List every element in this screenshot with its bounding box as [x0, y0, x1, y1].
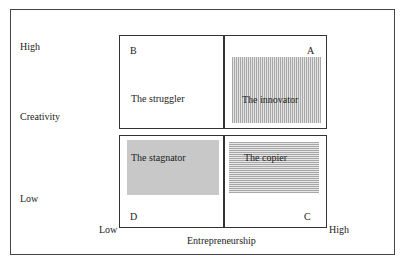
quadrant-divider [223, 36, 225, 128]
quadrant-c-label: The copier [244, 152, 287, 163]
quadrant-c-fill [229, 142, 319, 193]
quadrant-row-high: B The struggler A The innovator [119, 35, 327, 129]
y-low-label: Low [20, 193, 38, 204]
quadrant-a-fill [232, 57, 321, 123]
quadrant-row-low: The stagnator D The copier C [119, 135, 327, 228]
y-axis-label: Creativity [20, 111, 60, 122]
x-axis-label: Entrepreneurship [187, 235, 256, 246]
quadrant-a-label: The innovator [242, 94, 298, 105]
quadrant-d-fill [127, 140, 219, 195]
quadrant-b-letter: B [130, 45, 137, 56]
quadrant-c-letter: C [304, 211, 311, 222]
x-low-label: Low [99, 224, 117, 235]
quadrant-d-label: The stagnator [131, 152, 186, 163]
quadrant-divider [223, 136, 225, 227]
x-high-label: High [329, 224, 349, 235]
y-high-label: High [20, 41, 40, 52]
quadrant-a-letter: A [307, 45, 314, 56]
quadrant-b-label: The struggler [131, 93, 185, 104]
quadrant-d-letter: D [130, 211, 137, 222]
